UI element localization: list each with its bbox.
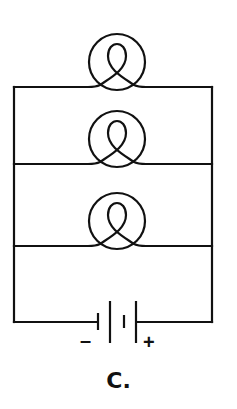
circuit-diagram xyxy=(0,0,237,409)
filament-icon xyxy=(100,121,134,162)
figure-label: C. xyxy=(0,368,237,393)
filament-icon xyxy=(100,203,134,244)
bulb-icon xyxy=(89,193,145,249)
bulb-branch-3 xyxy=(14,193,212,249)
bulb-branch-1 xyxy=(14,34,212,90)
filament-icon xyxy=(100,44,134,85)
bulb-branch-2 xyxy=(14,111,212,167)
battery-icon xyxy=(98,301,136,343)
positive-terminal-label: + xyxy=(143,331,155,354)
bulb-icon xyxy=(89,111,145,167)
bulb-icon xyxy=(89,34,145,90)
negative-terminal-label: – xyxy=(80,329,91,352)
battery-branch xyxy=(14,301,212,343)
